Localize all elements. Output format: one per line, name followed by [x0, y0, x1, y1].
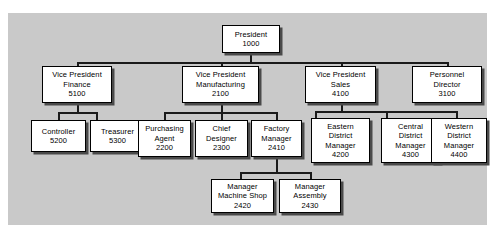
- node-western-line3: Manager: [444, 141, 474, 151]
- node-factory-manager[interactable]: Factory Manager 2410: [251, 120, 302, 157]
- node-eastern-line2: District: [329, 131, 353, 141]
- node-vp-manufacturing-line1: Vice President: [196, 70, 246, 80]
- node-factory-manager-code: 2410: [268, 143, 285, 153]
- node-chief-designer-code: 2300: [213, 143, 230, 153]
- node-president[interactable]: President 1000: [222, 25, 280, 53]
- node-personnel-director-line1: Personnel: [430, 70, 465, 80]
- org-chart-canvas: President 1000 Vice President Finance 51…: [0, 0, 495, 238]
- node-vp-finance[interactable]: Vice President Finance 5100: [42, 66, 112, 103]
- connector-factory-manager-stem: [276, 157, 278, 173]
- node-president-title: President: [235, 30, 268, 40]
- node-purchasing-agent-line1: Purchasing: [145, 124, 184, 134]
- connector-finance-bus: [58, 112, 98, 114]
- node-manager-assembly[interactable]: Manager Assembly 2430: [279, 179, 341, 213]
- node-vp-manufacturing[interactable]: Vice President Manufacturing 2100: [182, 66, 259, 103]
- node-treasurer-title: Treasurer: [101, 127, 134, 137]
- node-chief-designer-line2: Designer: [206, 134, 237, 144]
- node-vp-finance-line2: Finance: [63, 80, 90, 90]
- node-eastern-line3: Manager: [325, 141, 355, 151]
- node-assembly-code: 2430: [301, 201, 318, 211]
- node-factory-manager-line1: Factory: [264, 124, 290, 134]
- node-central-line1: Central: [398, 122, 423, 132]
- node-manager-machine-shop[interactable]: Manager Machine Shop 2420: [211, 179, 274, 213]
- node-personnel-director[interactable]: Personnel Director 3100: [412, 66, 482, 103]
- node-assembly-line2: Assembly: [293, 191, 326, 201]
- node-machine-shop-line2: Machine Shop: [218, 191, 267, 201]
- node-eastern-district-manager[interactable]: Eastern District Manager 4200: [311, 118, 370, 163]
- node-western-code: 4400: [450, 150, 467, 160]
- node-central-line2: District: [399, 131, 423, 141]
- node-controller[interactable]: Controller 5200: [31, 120, 86, 152]
- node-vp-finance-code: 5100: [68, 89, 85, 99]
- node-factory-manager-line2: Manager: [261, 134, 291, 144]
- connector-level2-bus: [77, 62, 449, 64]
- node-treasurer-code: 5300: [109, 136, 126, 146]
- node-central-code: 4300: [402, 150, 419, 160]
- node-treasurer[interactable]: Treasurer 5300: [90, 120, 145, 152]
- node-vp-manufacturing-code: 2100: [212, 89, 229, 99]
- node-vp-sales-code: 4100: [332, 89, 349, 99]
- node-vp-sales[interactable]: Vice President Sales 4100: [305, 66, 376, 103]
- node-vp-manufacturing-line2: Manufacturing: [196, 80, 245, 90]
- node-eastern-code: 4200: [332, 150, 349, 160]
- node-purchasing-agent[interactable]: Purchasing Agent 2200: [138, 120, 191, 157]
- connector-bottom-bus: [240, 172, 312, 174]
- node-personnel-director-code: 3100: [438, 89, 455, 99]
- node-western-district-manager[interactable]: Western District Manager 4400: [431, 118, 487, 163]
- node-vp-sales-line2: Sales: [331, 80, 350, 90]
- node-chief-designer[interactable]: Chief Designer 2300: [195, 120, 248, 157]
- node-vp-sales-line1: Vice President: [316, 70, 366, 80]
- node-eastern-line1: Eastern: [327, 122, 354, 132]
- node-western-line2: District: [447, 131, 471, 141]
- node-purchasing-agent-code: 2200: [156, 143, 173, 153]
- node-personnel-director-line2: Director: [433, 80, 460, 90]
- node-machine-shop-code: 2420: [234, 201, 251, 211]
- node-assembly-line1: Manager: [295, 182, 325, 192]
- node-controller-title: Controller: [42, 127, 76, 137]
- node-central-line3: Manager: [395, 141, 425, 151]
- node-president-code: 1000: [242, 39, 259, 49]
- node-chief-designer-line1: Chief: [212, 124, 230, 134]
- node-machine-shop-line1: Manager: [227, 182, 257, 192]
- node-western-line1: Western: [445, 122, 474, 132]
- node-controller-code: 5200: [50, 136, 67, 146]
- node-vp-finance-line1: Vice President: [52, 70, 102, 80]
- node-purchasing-agent-line2: Agent: [154, 134, 174, 144]
